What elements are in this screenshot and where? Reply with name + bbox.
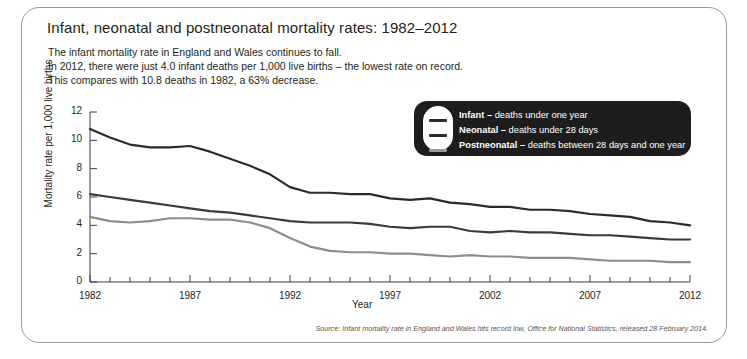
y-tick-label: 8 [60, 162, 82, 173]
y-tick-label: 0 [60, 275, 82, 286]
x-tick-label: 1992 [270, 290, 310, 301]
source-note: Source: Infant mortality rate in England… [315, 324, 708, 333]
y-tick-label: 6 [60, 190, 82, 201]
y-tick-label: 4 [60, 218, 82, 229]
legend-swatch-neonatal [429, 134, 447, 137]
x-tick-label: 1987 [170, 290, 210, 301]
plot-area: Mortality rate per 1,000 live births Yea… [22, 8, 728, 344]
y-axis-label: Mortality rate per 1,000 live births [43, 54, 54, 214]
chart-figure-frame: Infant, neonatal and postneonatal mortal… [21, 7, 727, 343]
legend-capsule [423, 106, 453, 151]
y-tick-label: 10 [60, 133, 82, 144]
legend-swatch-postneonatal [429, 149, 447, 152]
x-tick-label: 1997 [370, 290, 410, 301]
chart-legend: Infant – deaths under one yearNeonatal –… [414, 101, 691, 156]
legend-swatch-infant [429, 119, 447, 122]
legend-item-desc: deaths under 28 days [506, 125, 598, 135]
x-tick-label: 1982 [70, 290, 110, 301]
series-line-neonatal [90, 194, 690, 239]
series-line-postneonatal [90, 217, 690, 262]
x-tick-label: 2007 [570, 290, 610, 301]
legend-item-postneonatal: Postneonatal – deaths between 28 days an… [459, 140, 685, 150]
x-tick-label: 2002 [470, 290, 510, 301]
y-tick-label: 12 [60, 105, 82, 116]
legend-item-infant: Infant – deaths under one year [459, 110, 588, 120]
legend-item-name: Postneonatal – [459, 140, 525, 150]
legend-item-desc: deaths under one year [492, 110, 588, 120]
x-tick-label: 2012 [670, 290, 710, 301]
y-tick-label: 2 [60, 247, 82, 258]
legend-item-desc: deaths between 28 days and one year [525, 140, 685, 150]
legend-item-neonatal: Neonatal – deaths under 28 days [459, 125, 598, 135]
legend-item-name: Neonatal – [459, 125, 506, 135]
legend-item-name: Infant – [459, 110, 492, 120]
